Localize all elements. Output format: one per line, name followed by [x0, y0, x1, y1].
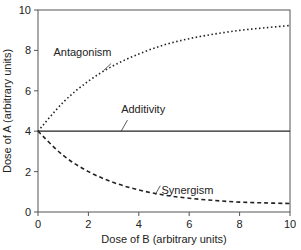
x-tick-label: 6: [186, 218, 192, 230]
leader-line: [155, 186, 160, 195]
annotations: AntagonismAdditivitySynergism: [53, 46, 213, 195]
leader-line: [121, 120, 127, 131]
y-tick-label: 0: [25, 206, 31, 218]
y-axis-label: Dose of A (arbitrary units): [1, 49, 13, 173]
y-tick-label: 8: [25, 44, 31, 56]
chart: 02468100246810 AntagonismAdditivitySyner…: [0, 0, 301, 250]
x-tick-label: 2: [85, 218, 91, 230]
x-tick-label: 0: [35, 218, 41, 230]
y-tick-label: 4: [25, 125, 31, 137]
series-antagonism: [38, 26, 290, 132]
annotation-antagonism: Antagonism: [53, 46, 111, 58]
plot-frame: 02468100246810: [19, 4, 296, 230]
y-tick-label: 6: [25, 85, 31, 97]
x-tick-label: 4: [136, 218, 142, 230]
x-axis-label: Dose of B (arbitrary units): [101, 233, 226, 245]
x-tick-label: 8: [237, 218, 243, 230]
x-tick-label: 10: [284, 218, 296, 230]
y-tick-label: 2: [25, 166, 31, 178]
annotation-additivity: Additivity: [121, 103, 166, 115]
annotation-synergism: Synergism: [161, 184, 213, 196]
y-tick-label: 10: [19, 4, 31, 16]
